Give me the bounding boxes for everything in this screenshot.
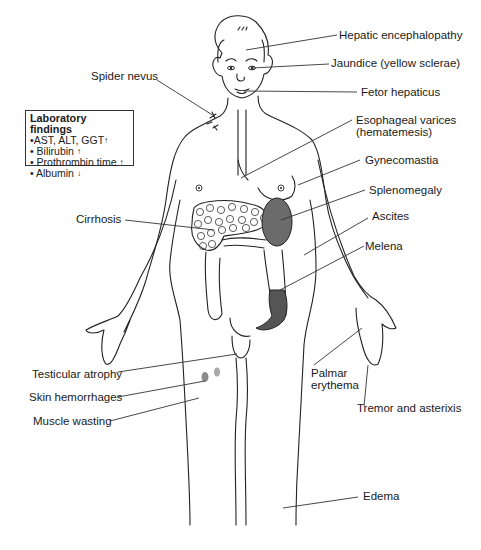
liver-nodule	[197, 232, 204, 239]
liver-nodule	[251, 208, 258, 215]
label-hepatic-encephalopathy: Hepatic encephalopathy	[339, 29, 463, 41]
lab-findings-title: Laboratory findings	[30, 113, 129, 135]
arrow-up-icon: ↑	[77, 147, 81, 156]
lab-item-text: Albumin	[36, 167, 77, 179]
label-skin-hemorrhages: Skin hemorrhages	[29, 391, 123, 403]
liver-disease-diagram: Hepatic encephalopathy Jaundice (yellow …	[0, 0, 481, 550]
label-tremor-asterixis: Tremor and asterixis	[357, 402, 462, 414]
label-erythema: erythema	[311, 379, 360, 391]
right-arm	[86, 180, 176, 364]
label-spider-nevus: Spider nevus	[91, 70, 158, 82]
arrow-up-icon: ↑	[104, 136, 108, 145]
label-testicular-atrophy: Testicular atrophy	[32, 368, 122, 380]
liver-nodule	[228, 203, 235, 210]
body-figure: Hepatic encephalopathy Jaundice (yellow …	[0, 0, 481, 550]
lab-item-albumin: • Albumin ↓	[30, 168, 129, 179]
label-edema: Edema	[363, 490, 400, 502]
liver-nodule	[218, 226, 225, 233]
liver-nodule	[217, 206, 224, 213]
skin-hemorrhage	[214, 368, 220, 377]
cirrhotic-liver	[192, 201, 268, 251]
liver-nodule	[240, 205, 247, 212]
liver-nodule	[208, 240, 215, 247]
enlarged-spleen	[262, 198, 292, 246]
liver-nodule	[196, 208, 203, 215]
arrow-up-icon: ↑	[119, 158, 123, 167]
liver-nodule	[194, 220, 201, 227]
label-palmar: Palmar	[311, 367, 348, 379]
torso	[124, 96, 368, 525]
label-hematemesis: (hematemesis)	[356, 126, 432, 138]
colon	[205, 238, 287, 337]
head	[213, 16, 273, 98]
lab-findings-box: Laboratory findings •AST, ALT, GGT↑ • Bi…	[25, 110, 134, 166]
label-gynecomastia: Gynecomastia	[365, 154, 439, 166]
arrow-down-icon: ↓	[77, 169, 81, 178]
skin-hemorrhage	[202, 372, 209, 382]
label-cirrhosis: Cirrhosis	[76, 213, 122, 225]
liver-nodule	[204, 216, 211, 223]
liver-nodule	[215, 218, 222, 225]
liver-nodule	[238, 216, 245, 223]
liver-nodule	[207, 229, 214, 236]
liver-nodule	[226, 215, 233, 222]
label-muscle-wasting: Muscle wasting	[33, 415, 112, 427]
label-fetor-hepaticus: Fetor hepaticus	[361, 86, 441, 98]
label-splenomegaly: Splenomegaly	[369, 184, 442, 196]
liver-nodule	[242, 224, 249, 231]
label-jaundice: Jaundice (yellow sclerae)	[331, 57, 460, 69]
liver-nodule	[229, 224, 236, 231]
label-melena: Melena	[365, 240, 403, 252]
label-esophageal-varices: Esophageal varices	[356, 114, 457, 126]
label-ascites: Ascites	[372, 210, 409, 222]
liver-nodule	[250, 218, 257, 225]
liver-nodule	[206, 204, 213, 211]
